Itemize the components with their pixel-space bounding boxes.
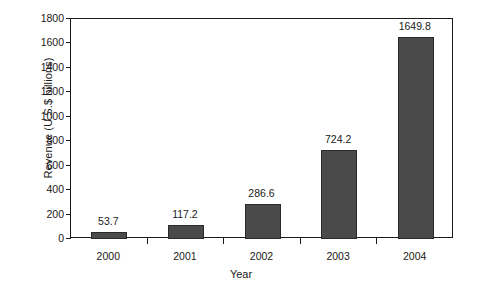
y-tick-mark [66,238,71,239]
bar-value-label: 117.2 [150,208,220,220]
x-tick-label: 2003 [303,250,373,262]
bar-chart: Revenue (U.S.$ billions) 020040060080010… [0,0,482,290]
x-tick-mark [376,238,377,244]
y-tick-label: 1800 [30,13,64,23]
y-tick-label: 800 [30,135,64,145]
y-tick-label: 1000 [30,111,64,121]
y-tick-label: 1400 [30,62,64,72]
y-tick-label: 1200 [30,86,64,96]
x-axis-title: Year [0,268,482,280]
bar-value-label: 286.6 [227,187,297,199]
bar [168,225,204,239]
y-tick-label: 400 [30,184,64,194]
bar-value-label: 1649.8 [380,20,450,32]
bar [321,150,357,239]
bar [398,37,434,239]
x-tick-mark [223,238,224,244]
x-tick-label: 2001 [150,250,220,262]
plot-area [70,18,453,238]
bar [245,204,281,239]
x-tick-mark [147,238,148,244]
y-tick-label: 200 [30,209,64,219]
x-tick-label: 2002 [227,250,297,262]
bar-value-label: 724.2 [303,133,373,145]
x-tick-mark [300,238,301,244]
x-tick-label: 2004 [380,250,450,262]
x-tick-label: 2000 [73,250,143,262]
y-tick-label: 0 [30,233,64,243]
y-tick-label: 600 [30,160,64,170]
y-tick-label: 1600 [30,37,64,47]
bar [91,232,127,239]
bar-value-label: 53.7 [73,215,143,227]
